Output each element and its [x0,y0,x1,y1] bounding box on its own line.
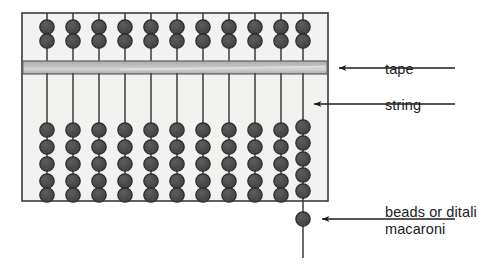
bead [248,157,262,171]
bead [92,20,106,34]
bead [196,140,210,154]
bead [222,20,236,34]
bead [118,188,132,202]
bead [66,34,80,48]
bead [66,20,80,34]
bead [66,140,80,154]
bead [170,174,184,188]
bead [144,20,158,34]
bead [170,20,184,34]
bead [118,20,132,34]
bead [170,140,184,154]
bead [170,123,184,137]
bead [144,157,158,171]
beads-label-line1: beads or ditali [385,204,477,220]
bead [222,123,236,137]
bead [66,174,80,188]
leader-arrows [314,68,455,219]
bead [40,20,54,34]
bead [222,188,236,202]
bead [66,188,80,202]
bead [248,140,262,154]
bead [196,157,210,171]
string-label: string [385,97,421,114]
bead [92,140,106,154]
bead [118,123,132,137]
bead [170,34,184,48]
bead [170,188,184,202]
bead [274,140,288,154]
bead [92,188,106,202]
beads-label-line2: macaroni [385,221,477,238]
bead [144,188,158,202]
bead [144,34,158,48]
bead [222,34,236,48]
bead [40,140,54,154]
loose-bead [296,212,310,226]
bead [274,123,288,137]
bead [196,123,210,137]
bead [296,152,310,166]
bead [40,174,54,188]
bead [296,34,310,48]
bead [170,157,184,171]
bead [196,188,210,202]
bead [296,120,310,134]
bead [144,123,158,137]
bead [296,184,310,198]
bead [40,123,54,137]
diagram-canvas: tape string beads or ditali macaroni [0,0,500,271]
bead [40,157,54,171]
bead [92,174,106,188]
bead [274,34,288,48]
bead [274,188,288,202]
bead [274,174,288,188]
bead [248,34,262,48]
bead [196,34,210,48]
bead [196,20,210,34]
bead [40,34,54,48]
bead [66,157,80,171]
bead [296,136,310,150]
bead [118,34,132,48]
bead [92,123,106,137]
bead [196,174,210,188]
beads-label: beads or ditali macaroni [385,204,477,238]
bead [222,140,236,154]
bead [118,157,132,171]
loose-bead-group [296,212,310,226]
tape-label: tape [385,61,414,78]
bead [92,34,106,48]
bead [144,140,158,154]
tape-band [23,61,327,74]
bead [222,174,236,188]
bead [40,188,54,202]
bead [66,123,80,137]
bead [274,157,288,171]
bead [248,174,262,188]
bead [118,174,132,188]
bead [274,20,288,34]
bead [144,174,158,188]
bead [296,168,310,182]
bead [296,20,310,34]
bead [118,140,132,154]
bead [222,157,236,171]
bead [248,123,262,137]
bead [248,20,262,34]
bead [92,157,106,171]
bead [248,188,262,202]
